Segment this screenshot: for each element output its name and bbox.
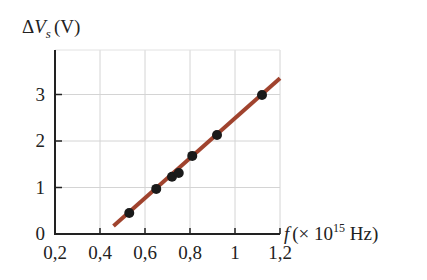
data-point [174, 168, 184, 178]
data-point [124, 208, 134, 218]
y-tick-label: 2 [36, 130, 46, 151]
x-tick-label: 0,8 [178, 242, 202, 263]
axes [54, 50, 280, 235]
x-tick-label: 0,2 [43, 242, 67, 263]
chart-svg: 0,20,40,60,811,20123 ΔVs(V) f(× 1015 Hz) [0, 0, 427, 280]
data-point [212, 130, 222, 140]
x-tick-label: 0,4 [88, 242, 112, 263]
tick-labels: 0,20,40,60,811,20123 [36, 84, 292, 264]
grid [55, 50, 280, 234]
y-axis-label: ΔVs(V) [22, 16, 80, 41]
data-point [257, 90, 267, 100]
x-axis-label: f(× 1015 Hz) [284, 221, 378, 245]
x-tick-label: 1 [230, 242, 240, 263]
y-tick-label: 1 [36, 177, 46, 198]
data-point [151, 184, 161, 194]
data-point [187, 151, 197, 161]
y-tick-label: 0 [36, 223, 46, 244]
fit-line [114, 78, 281, 226]
x-tick-label: 0,6 [133, 242, 157, 263]
y-tick-label: 3 [36, 84, 46, 105]
x-tick-label: 1,2 [268, 242, 292, 263]
